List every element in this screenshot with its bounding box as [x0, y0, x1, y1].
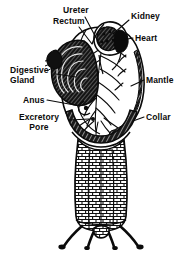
label-kidney: Kidney	[131, 12, 160, 22]
label-digestive-gland-line1: Digestive	[10, 65, 49, 75]
label-digestive-gland-line2: Gland	[10, 75, 35, 85]
label-mantle: Mantle	[146, 76, 174, 86]
appendage-tips	[58, 245, 143, 250]
anatomy-figure: Ureter Rectum Kidney Heart Digestive Gla…	[0, 0, 187, 255]
excretory-pore-opening	[91, 117, 95, 121]
heart-organ	[114, 30, 128, 53]
label-ureter: Ureter	[63, 6, 89, 16]
label-rectum: Rectum	[53, 17, 85, 27]
label-excretory-pore-line1: Excretory	[19, 112, 59, 122]
label-collar: Collar	[146, 113, 171, 123]
basal-knot	[94, 226, 109, 238]
digestive-gland-outline	[52, 40, 99, 105]
label-heart: Heart	[135, 34, 157, 44]
label-anus: Anus	[23, 96, 45, 106]
label-excretory-pore-line2: Pore	[29, 122, 48, 132]
label-digestive-gland: Digestive Gland	[10, 66, 54, 85]
foot-column	[75, 140, 127, 231]
label-excretory-pore: Excretory Pore	[11, 113, 67, 132]
